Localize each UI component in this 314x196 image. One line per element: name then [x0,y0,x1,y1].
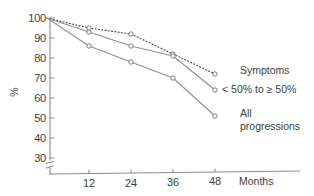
data-point-marker [213,72,217,76]
y-axis-title: % [8,87,20,96]
x-axis-title: Months [239,175,273,187]
y-tick-label-50: 50 [34,112,46,124]
y-tick-label-100: 100 [28,12,46,24]
data-point-marker [129,32,133,36]
y-tick-label-90: 90 [34,32,46,44]
y-tick-label-60: 60 [34,92,46,104]
y-axis-ticks [50,18,54,158]
data-point-marker [171,76,175,80]
data-point-marker [171,54,175,58]
series-label-symptoms: Symptoms [240,64,290,76]
axis-break-icon [47,162,54,169]
y-tick-label-70: 70 [34,72,46,84]
y-tick-label-40: 40 [34,132,46,144]
x-tick-label-12: 12 [83,177,95,189]
survival-curve-chart: 100 90 80 70 60 50 40 30 % 12 24 36 48 M… [0,0,314,196]
series-label-partial-response: < 50% to ≥ 50% [222,83,296,95]
data-point-marker [213,88,217,92]
x-axis-line [50,171,300,174]
data-point-marker [87,44,91,48]
x-tick-label-36: 36 [167,176,179,188]
x-tick-label-48: 48 [209,175,221,187]
series-label-all-progressions-line1: All [240,107,252,119]
chart-canvas: 100 90 80 70 60 50 40 30 % 12 24 36 48 M… [0,0,314,196]
data-point-marker [87,30,91,34]
data-point-marker [129,60,133,64]
x-tick-label-24: 24 [125,177,137,189]
series-layer [47,18,217,118]
y-tick-label-80: 80 [34,52,46,64]
data-point-marker [213,114,217,118]
series-label-all-progressions-line2: progressions [240,120,300,132]
y-tick-label-30: 30 [34,152,46,164]
series-line-1 [47,18,215,90]
data-point-marker [129,44,133,48]
